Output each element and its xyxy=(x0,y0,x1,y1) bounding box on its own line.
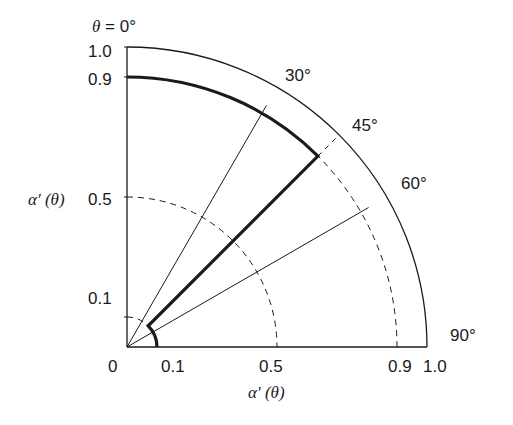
x-tick-1.0: 1.0 xyxy=(423,357,447,376)
x-tick-0.1: 0.1 xyxy=(161,357,185,376)
y-tick-0.5: 0.5 xyxy=(88,190,112,209)
x-tick-0.9: 0.9 xyxy=(388,357,412,376)
angle-label-60: 60° xyxy=(401,174,427,193)
polar-diagram: θ = 0° 1.0 0.9 0.5 0.1 α′ (θ) 0 0.1 0.5 … xyxy=(0,0,513,425)
title-theta-zero: θ = 0° xyxy=(92,17,136,36)
y-axis-label: α′ (θ) xyxy=(28,190,65,209)
title-rest: = 0° xyxy=(100,17,136,36)
y-tick-0.9: 0.9 xyxy=(88,70,112,89)
angle-label-30: 30° xyxy=(285,66,311,85)
x-tick-0.5: 0.5 xyxy=(259,357,283,376)
x-axis-label: α′ (θ) xyxy=(248,383,285,402)
diagram-geometry xyxy=(124,47,427,347)
theta-symbol: θ xyxy=(92,17,100,36)
y-tick-0.1: 0.1 xyxy=(88,289,112,308)
y-tick-1.0: 1.0 xyxy=(88,42,112,61)
ray-45deg-dashed-extension xyxy=(318,137,337,156)
origin-label: 0 xyxy=(108,357,117,376)
thick-boundary-contour xyxy=(127,77,318,347)
angle-label-45: 45° xyxy=(352,116,378,135)
angle-label-90: 90° xyxy=(450,326,476,345)
